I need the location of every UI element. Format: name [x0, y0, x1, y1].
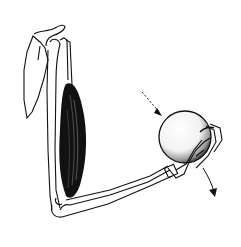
- arm-drawing: [0, 0, 241, 247]
- scapula: [24, 25, 65, 118]
- arm-illustration: [0, 0, 241, 247]
- biceps-muscle: [59, 83, 86, 197]
- load-arrow: [142, 92, 162, 116]
- ball: [159, 111, 211, 163]
- motion-arrow: [203, 168, 217, 197]
